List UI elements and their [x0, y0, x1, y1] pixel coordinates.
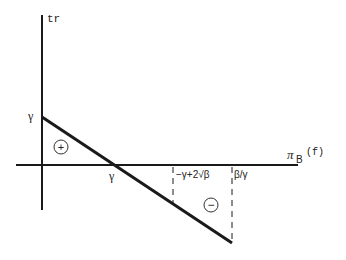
- tick2-label: β/γ: [234, 169, 248, 180]
- tick1-label: −γ+2√β: [176, 169, 210, 180]
- negative-region-label: −: [207, 198, 214, 212]
- x-axis-label-sub: B: [296, 154, 303, 165]
- positive-region-label: +: [58, 141, 64, 153]
- x-axis-label-arg: (f): [306, 147, 324, 158]
- x-axis-label-pi: π: [287, 147, 294, 162]
- y-intercept-label: γ: [27, 109, 34, 123]
- trade-diagram: tr γ γ −γ+2√β β/γ + − π B (f): [0, 0, 346, 260]
- y-axis-label: tr: [47, 13, 60, 25]
- x-intercept-label: γ: [108, 169, 115, 183]
- trade-line: [42, 117, 232, 243]
